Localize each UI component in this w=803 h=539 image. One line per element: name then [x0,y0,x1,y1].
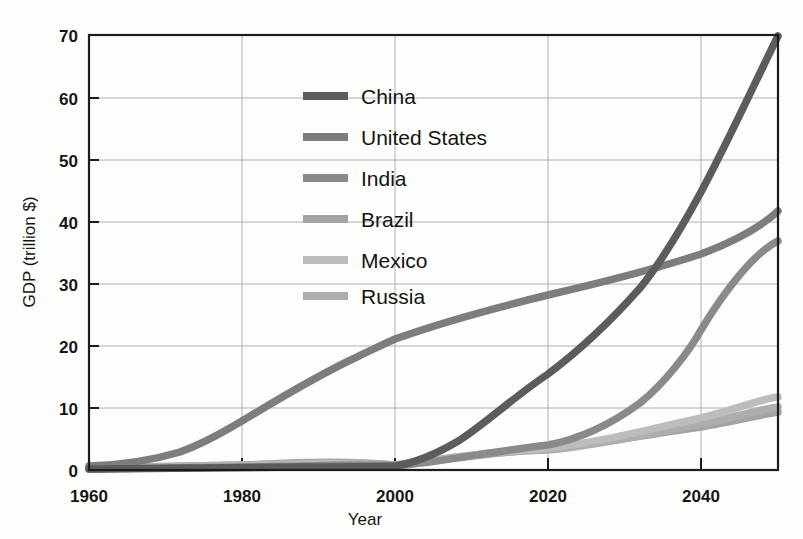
y-axis-title: GDP (trillion $) [20,196,39,307]
series-line-india [89,241,778,469]
grid-lines [89,35,778,470]
legend-label-united-states: United States [361,126,487,149]
y-tick-label-0: 0 [69,462,78,481]
x-tick-label-1960: 1960 [70,487,108,506]
plot-area-frame [89,35,778,470]
x-tick-label-2040: 2040 [682,487,720,506]
gdp-projection-chart: 70 60 50 40 30 20 10 0 1960 1980 2000 20… [0,0,803,539]
legend-label-china: China [361,85,416,108]
legend-label-india: India [361,167,407,190]
x-axis-title: Year [348,510,383,529]
x-tick-label-2000: 2000 [376,487,414,506]
series-line-china [89,36,778,469]
y-axis-tick-labels: 70 60 50 40 30 20 10 0 [59,27,78,481]
legend-label-russia: Russia [361,285,426,308]
y-tick-label-20: 20 [59,338,78,357]
x-tick-label-2020: 2020 [529,487,567,506]
x-tick-label-1980: 1980 [223,487,261,506]
series-lines [89,36,778,469]
legend-label-brazil: Brazil [361,208,414,231]
y-tick-label-70: 70 [59,27,78,46]
y-tick-label-10: 10 [59,400,78,419]
y-tick-label-50: 50 [59,152,78,171]
x-axis-tick-labels: 1960 1980 2000 2020 2040 [70,487,720,506]
y-tick-label-40: 40 [59,214,78,233]
y-tick-label-60: 60 [59,90,78,109]
y-tick-label-30: 30 [59,276,78,295]
chart-canvas: 70 60 50 40 30 20 10 0 1960 1980 2000 20… [0,0,803,539]
legend-label-mexico: Mexico [361,249,428,272]
